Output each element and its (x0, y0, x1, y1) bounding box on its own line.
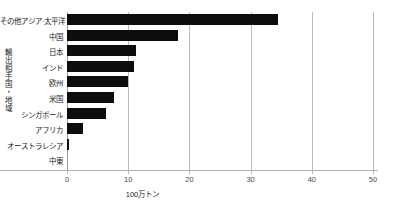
bar (67, 30, 178, 41)
bar-row (67, 108, 106, 119)
y-axis-tick-label: 中東 (0, 155, 63, 166)
bar (67, 123, 83, 134)
x-axis-tick (373, 170, 374, 174)
bar (67, 92, 114, 103)
bar-chart: 輸出相手国・地域 その他アジア·太平洋中国日本インド欧州米国シンガポールアフリカ… (0, 0, 411, 208)
gridline-30 (251, 12, 252, 170)
x-axis-title-text: 100万トン (126, 190, 160, 199)
bar (67, 139, 69, 150)
x-axis-title: 100万トン (0, 188, 411, 199)
x-axis-tick (128, 170, 129, 174)
x-axis-tick-label: 40 (308, 175, 316, 184)
y-axis-tick-label: 米国 (0, 93, 63, 104)
y-axis-tick-label: インド (0, 62, 63, 73)
bar-row (67, 76, 128, 87)
bar (67, 61, 134, 72)
bar-row (67, 92, 114, 103)
x-axis-tick (189, 170, 190, 174)
y-axis-tick-label: その他アジア·太平洋 (0, 15, 63, 26)
x-axis-tick-label: 10 (124, 175, 132, 184)
gridline-50 (373, 12, 374, 170)
y-axis-tick-label: シンガポール (0, 109, 63, 120)
x-axis-tick (67, 170, 68, 174)
x-axis-tick-label: 50 (369, 175, 377, 184)
bar-row (67, 123, 83, 134)
y-axis-tick-label: オーストラレシア (0, 140, 63, 151)
plot-area (67, 12, 373, 170)
bar-row (67, 61, 134, 72)
bar (67, 14, 278, 25)
bar-row (67, 45, 136, 56)
x-axis-tick-label: 20 (185, 175, 193, 184)
bar-row (67, 14, 278, 25)
bar-row (67, 30, 178, 41)
gridline-20 (189, 12, 190, 170)
bar (67, 76, 128, 87)
gridline-40 (312, 12, 313, 170)
x-axis-tick-label: 30 (246, 175, 254, 184)
x-axis-tick (251, 170, 252, 174)
y-axis-tick-label: アフリカ (0, 124, 63, 135)
x-axis-tick (312, 170, 313, 174)
y-axis-tick-labels: その他アジア·太平洋中国日本インド欧州米国シンガポールアフリカオーストラレシア中… (0, 12, 63, 170)
bar (67, 108, 106, 119)
bar (67, 45, 136, 56)
y-axis-tick-label: 欧州 (0, 77, 63, 88)
y-axis-tick-label: 中国 (0, 31, 63, 42)
bar-row (67, 139, 69, 150)
x-axis-tick-label: 0 (65, 175, 69, 184)
y-axis-tick-label: 日本 (0, 46, 63, 57)
